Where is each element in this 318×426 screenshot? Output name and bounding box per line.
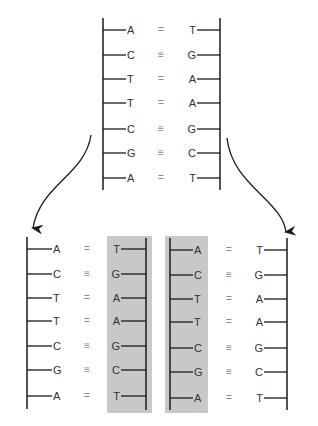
- hydrogen-bond: ≡: [84, 364, 90, 375]
- hydrogen-bond: =: [84, 390, 90, 401]
- right-base: G: [111, 340, 120, 352]
- right-base: G: [254, 342, 263, 354]
- left-base: T: [194, 316, 201, 328]
- base-pair-row: A=T: [103, 172, 220, 184]
- right-base: T: [113, 243, 120, 255]
- right-base: A: [113, 315, 121, 327]
- arrow-to-right-daughter: [227, 138, 286, 232]
- hydrogen-bond: ≡: [158, 49, 164, 60]
- right-base: T: [256, 244, 263, 256]
- hydrogen-bond: =: [226, 392, 232, 403]
- left-base: C: [127, 123, 135, 135]
- left-base: T: [127, 97, 134, 109]
- left-base: A: [53, 390, 61, 402]
- hydrogen-bond: =: [226, 316, 232, 327]
- hydrogen-bond: ≡: [226, 366, 232, 377]
- right-base: T: [189, 172, 196, 184]
- hydrogen-bond: ≡: [226, 342, 232, 353]
- left-base: A: [127, 24, 135, 36]
- hydrogen-bond: =: [84, 243, 90, 254]
- left-base: C: [53, 340, 61, 352]
- hydrogen-bond: ≡: [158, 123, 164, 134]
- left-base: C: [127, 49, 135, 61]
- left-base: C: [194, 269, 202, 281]
- base-pair-row: C≡G: [103, 49, 220, 61]
- hydrogen-bond: =: [226, 293, 232, 304]
- new-strand-highlight: [165, 236, 208, 413]
- daughter-right-dna: A=TC≡GT=AT=AC≡GG≡CA=T: [165, 236, 287, 413]
- right-base: T: [113, 390, 120, 402]
- parent-dna: A=TC≡GT=AT=AC≡GG≡CA=T: [103, 18, 220, 190]
- left-base: T: [127, 73, 134, 85]
- left-base: G: [194, 366, 203, 378]
- hydrogen-bond: ≡: [84, 268, 90, 279]
- right-base: A: [256, 293, 264, 305]
- left-base: G: [53, 364, 62, 376]
- base-pair-row: C≡G: [103, 123, 220, 135]
- hydrogen-bond: =: [84, 315, 90, 326]
- right-base: T: [256, 392, 263, 404]
- right-base: A: [189, 73, 197, 85]
- right-base: G: [254, 269, 263, 281]
- arrow-to-left-daughter: [33, 135, 91, 228]
- left-base: A: [127, 172, 135, 184]
- left-base: A: [194, 392, 202, 404]
- hydrogen-bond: =: [84, 292, 90, 303]
- left-base: G: [127, 147, 136, 159]
- left-base: A: [53, 243, 61, 255]
- daughter-left-dna: A=TC≡GT=AT=AC≡GG≡CA=T: [27, 236, 152, 413]
- right-base: G: [187, 49, 196, 61]
- right-base: C: [188, 147, 196, 159]
- left-base: T: [53, 315, 60, 327]
- right-base: A: [256, 316, 264, 328]
- hydrogen-bond: =: [158, 97, 164, 108]
- dna-replication-diagram: A=TC≡GT=AT=AC≡GG≡CA=T A=TC≡GT=AT=AC≡GG≡C…: [0, 0, 318, 426]
- hydrogen-bond: =: [158, 172, 164, 183]
- base-pair-row: G≡C: [103, 147, 220, 159]
- left-base: T: [194, 293, 201, 305]
- hydrogen-bond: =: [158, 24, 164, 35]
- right-base: C: [255, 366, 263, 378]
- base-pair-row: A=T: [103, 24, 220, 36]
- base-pair-row: T=A: [103, 73, 220, 85]
- hydrogen-bond: =: [158, 73, 164, 84]
- right-base: A: [113, 292, 121, 304]
- right-base: C: [112, 364, 120, 376]
- left-base: T: [53, 292, 60, 304]
- hydrogen-bond: ≡: [158, 147, 164, 158]
- left-base: C: [194, 342, 202, 354]
- left-base: A: [194, 244, 202, 256]
- base-pair-row: T=A: [103, 97, 220, 109]
- left-base: C: [53, 268, 61, 280]
- hydrogen-bond: ≡: [226, 269, 232, 280]
- right-base: G: [187, 123, 196, 135]
- right-base: A: [189, 97, 197, 109]
- hydrogen-bond: ≡: [84, 340, 90, 351]
- right-base: T: [189, 24, 196, 36]
- right-base: G: [111, 268, 120, 280]
- hydrogen-bond: =: [226, 244, 232, 255]
